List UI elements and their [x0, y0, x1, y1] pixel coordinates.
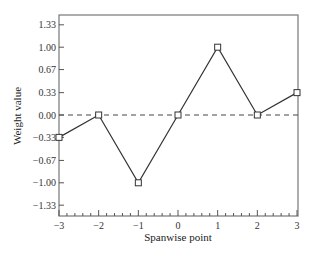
y-tick-label: 1.00 — [39, 42, 57, 53]
square-marker — [175, 112, 181, 118]
y-tick-label: −0.33 — [33, 132, 56, 143]
square-marker — [96, 112, 102, 118]
y-tick-label: −0.67 — [33, 155, 56, 166]
y-tick-label: 0.67 — [39, 64, 57, 75]
y-axis-title: Weight value — [11, 87, 23, 145]
x-tick-label: 0 — [176, 220, 181, 231]
x-tick-label: 1 — [215, 220, 220, 231]
square-marker — [294, 90, 300, 96]
x-tick-label: −1 — [133, 220, 144, 231]
y-tick-label: −1.00 — [33, 177, 56, 188]
x-tick-label: −2 — [93, 220, 104, 231]
square-marker — [215, 44, 221, 50]
x-axis-title: Spanwise point — [144, 231, 212, 243]
y-tick-label: −1.33 — [33, 200, 56, 211]
data-series — [56, 44, 300, 186]
line-chart: 1.331.000.670.330.00−0.33−0.67−1.00−1.33… — [0, 0, 314, 257]
square-marker — [254, 112, 260, 118]
square-marker — [56, 134, 62, 140]
x-tick-label: −3 — [54, 220, 65, 231]
y-tick-label: 0.33 — [39, 87, 57, 98]
x-tick-label: 3 — [295, 220, 300, 231]
x-axis-ticks: −3−2−10123 — [54, 210, 300, 231]
x-tick-label: 2 — [255, 220, 260, 231]
y-tick-label: 1.33 — [39, 19, 57, 30]
square-marker — [135, 180, 141, 186]
y-tick-label: 0.00 — [39, 110, 57, 121]
